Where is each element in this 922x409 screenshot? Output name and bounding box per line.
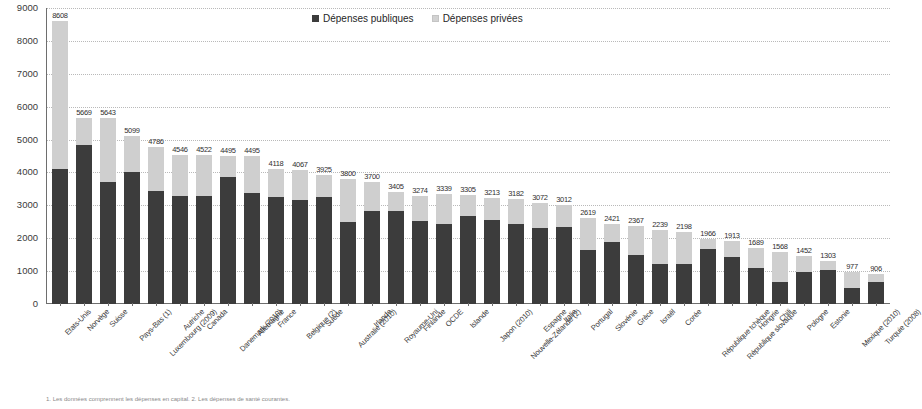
bar-segment-private[interactable]	[604, 224, 621, 242]
bar-segment-public[interactable]	[172, 196, 189, 304]
bar-segment-public[interactable]	[364, 211, 381, 304]
bar-segment-public[interactable]	[412, 221, 429, 304]
bar-segment-public[interactable]	[532, 228, 549, 304]
bar-stack[interactable]: 3182	[508, 199, 525, 304]
bar-segment-public[interactable]	[316, 197, 333, 304]
bar-segment-public[interactable]	[52, 169, 69, 304]
bar-segment-private[interactable]	[244, 156, 261, 193]
bar-column[interactable]: 3182	[504, 8, 528, 304]
bar-stack[interactable]: 3274	[412, 196, 429, 304]
bar-segment-private[interactable]	[724, 241, 741, 257]
bar-segment-public[interactable]	[196, 196, 213, 304]
bar-stack[interactable]: 4067	[292, 170, 309, 304]
bar-stack[interactable]: 3800	[340, 179, 357, 304]
bar-stack[interactable]: 3072	[532, 203, 549, 304]
bar-segment-private[interactable]	[700, 239, 717, 249]
bar-column[interactable]: 2619	[576, 8, 600, 304]
bar-segment-private[interactable]	[532, 203, 549, 228]
bar-stack[interactable]: 4786	[148, 147, 165, 304]
bar-segment-public[interactable]	[388, 211, 405, 304]
bar-column[interactable]: 4786	[144, 8, 168, 304]
bar-segment-private[interactable]	[364, 182, 381, 210]
bar-segment-public[interactable]	[460, 216, 477, 304]
bar-segment-private[interactable]	[844, 272, 861, 288]
bar-column[interactable]: 4495	[240, 8, 264, 304]
legend-item-private[interactable]: Dépenses privées	[432, 13, 523, 24]
bar-column[interactable]: 3925	[312, 8, 336, 304]
bar-segment-private[interactable]	[796, 256, 813, 272]
bar-segment-public[interactable]	[556, 227, 573, 304]
bar-segment-private[interactable]	[508, 199, 525, 223]
bar-segment-public[interactable]	[772, 282, 789, 304]
bar-segment-public[interactable]	[244, 193, 261, 304]
bar-stack[interactable]: 977	[844, 272, 861, 304]
bar-segment-public[interactable]	[436, 224, 453, 304]
bar-column[interactable]: 3800	[336, 8, 360, 304]
bar-column[interactable]: 4495	[216, 8, 240, 304]
legend-item-public[interactable]: Dépenses publiques	[312, 13, 414, 24]
bar-column[interactable]: 1452	[792, 8, 816, 304]
bar-segment-public[interactable]	[796, 272, 813, 304]
bar-segment-private[interactable]	[292, 170, 309, 200]
bar-segment-public[interactable]	[292, 200, 309, 304]
bar-column[interactable]: 5643	[96, 8, 120, 304]
bar-segment-private[interactable]	[388, 192, 405, 211]
bar-stack[interactable]: 906	[868, 274, 885, 304]
bar-segment-public[interactable]	[628, 255, 645, 304]
bar-segment-private[interactable]	[124, 136, 141, 171]
bar-segment-private[interactable]	[868, 274, 885, 282]
bar-column[interactable]: 977	[840, 8, 864, 304]
bar-segment-private[interactable]	[580, 218, 597, 250]
bar-segment-private[interactable]	[748, 248, 765, 267]
bar-segment-private[interactable]	[220, 156, 237, 177]
bar-segment-private[interactable]	[148, 147, 165, 192]
bar-stack[interactable]: 3305	[460, 195, 477, 304]
bar-stack[interactable]: 1303	[820, 261, 837, 304]
bar-segment-private[interactable]	[340, 179, 357, 222]
bar-segment-public[interactable]	[148, 191, 165, 304]
bar-stack[interactable]: 1966	[700, 239, 717, 304]
bar-segment-public[interactable]	[652, 264, 669, 304]
bar-segment-public[interactable]	[700, 249, 717, 304]
bar-segment-private[interactable]	[52, 21, 69, 169]
bar-column[interactable]: 3405	[384, 8, 408, 304]
bar-segment-public[interactable]	[580, 250, 597, 304]
bar-segment-private[interactable]	[76, 118, 93, 146]
bar-stack[interactable]: 2619	[580, 218, 597, 304]
bar-stack[interactable]: 3925	[316, 175, 333, 304]
bar-column[interactable]: 4118	[264, 8, 288, 304]
bar-segment-private[interactable]	[556, 205, 573, 227]
bar-segment-private[interactable]	[772, 252, 789, 282]
bar-stack[interactable]: 3213	[484, 198, 501, 304]
bar-stack[interactable]: 4546	[172, 155, 189, 304]
bar-segment-public[interactable]	[220, 177, 237, 304]
bar-segment-private[interactable]	[196, 155, 213, 196]
bar-column[interactable]: 906	[864, 8, 888, 304]
bar-stack[interactable]: 5643	[100, 118, 117, 304]
bar-column[interactable]: 3012	[552, 8, 576, 304]
bar-stack[interactable]: 3700	[364, 182, 381, 304]
bar-segment-private[interactable]	[676, 232, 693, 264]
bar-stack[interactable]: 4495	[220, 156, 237, 304]
bar-column[interactable]: 4546	[168, 8, 192, 304]
bar-stack[interactable]: 1913	[724, 241, 741, 304]
bar-segment-private[interactable]	[268, 169, 285, 198]
bar-segment-public[interactable]	[676, 264, 693, 304]
bar-segment-private[interactable]	[436, 194, 453, 224]
bar-segment-private[interactable]	[820, 261, 837, 270]
bar-stack[interactable]: 3012	[556, 205, 573, 304]
bar-column[interactable]: 4067	[288, 8, 312, 304]
bar-column[interactable]: 1966	[696, 8, 720, 304]
bar-segment-private[interactable]	[100, 118, 117, 182]
bar-stack[interactable]: 4495	[244, 156, 261, 304]
bar-segment-public[interactable]	[124, 172, 141, 304]
bar-segment-public[interactable]	[100, 182, 117, 304]
bar-column[interactable]: 2367	[624, 8, 648, 304]
bar-column[interactable]: 4522	[192, 8, 216, 304]
bar-column[interactable]: 1913	[720, 8, 744, 304]
bar-column[interactable]: 3072	[528, 8, 552, 304]
bar-stack[interactable]: 1452	[796, 256, 813, 304]
bar-column[interactable]: 2421	[600, 8, 624, 304]
bar-stack[interactable]: 1689	[748, 248, 765, 304]
bar-column[interactable]: 1689	[744, 8, 768, 304]
